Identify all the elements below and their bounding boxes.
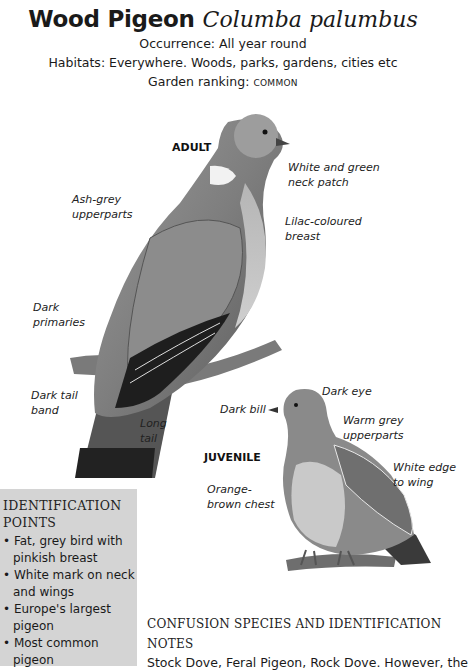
adult-stage-label: ADULT [172, 141, 211, 154]
confusion-species-section: CONFUSION SPECIES AND IDENTIFICATIONNOTE… [147, 614, 447, 672]
label-long-tail: Longtail [140, 416, 167, 446]
heading-line: POINTS [3, 515, 56, 530]
identification-points-box: IDENTIFICATIONPOINTS Fat, grey bird with… [0, 489, 137, 666]
label-dark-bill: Dark bill [220, 402, 266, 417]
confusion-heading: CONFUSION SPECIES AND IDENTIFICATIONNOTE… [147, 614, 447, 654]
label-warm-grey-upperparts: Warm greyupperparts [343, 413, 404, 443]
heading-line: CONFUSION SPECIES AND IDENTIFICATION [147, 617, 441, 631]
label-neck-patch: White and greenneck patch [288, 160, 380, 190]
label-white-edge-wing: White edgeto wing [393, 460, 456, 490]
label-dark-eye: Dark eye [322, 384, 372, 399]
ranking-label: Garden ranking: [148, 74, 253, 89]
label-line: neck patch [288, 176, 349, 189]
common-name: Wood Pigeon [28, 6, 194, 32]
label-line: Dark tail [31, 389, 78, 402]
occurrence: Occurrence: All year round [0, 36, 446, 51]
label-dark-primaries: Darkprimaries [33, 300, 85, 330]
garden-ranking: Garden ranking: COMMON [0, 74, 446, 89]
label-line: tail [140, 432, 157, 445]
habitats: Habitats: Everywhere. Woods, parks, gard… [0, 55, 446, 70]
identification-point: Europe's largest pigeon [3, 601, 137, 635]
label-line: Long [140, 417, 167, 430]
label-line: breast [285, 230, 320, 243]
identification-list: Fat, grey bird with pinkish breast White… [0, 531, 137, 669]
label-line: Ash-grey [72, 193, 121, 206]
label-line: Warm grey [343, 414, 404, 427]
label-line: White and green [288, 161, 380, 174]
confusion-text: Stock Dove, Feral Pigeon, Rock Dove. How… [147, 654, 447, 672]
identification-heading: IDENTIFICATIONPOINTS [0, 489, 137, 531]
label-line: Lilac-coloured [285, 215, 362, 228]
label-ash-grey-upperparts: Ash-greyupperparts [72, 192, 133, 222]
identification-point: White mark on neck and wings [3, 567, 137, 601]
identification-point: Most common pigeon [3, 635, 137, 669]
label-line: to wing [393, 476, 434, 489]
ranking-value: COMMON [253, 78, 298, 88]
identification-point: Fat, grey bird with pinkish breast [3, 533, 137, 567]
label-lilac-breast: Lilac-colouredbreast [285, 214, 362, 244]
latin-name: Columba palumbus [203, 7, 418, 32]
label-orange-brown-chest: Orange-brown chest [207, 482, 275, 512]
species-title: Wood PigeonColumba palumbus [0, 6, 446, 32]
label-dark-tail-band: Dark tailband [31, 388, 78, 418]
label-line: Orange- [207, 483, 252, 496]
label-line: upperparts [343, 429, 404, 442]
heading-line: IDENTIFICATION [3, 498, 121, 513]
label-line: Dark [33, 301, 59, 314]
label-line: White edge [393, 461, 456, 474]
label-line: band [31, 404, 59, 417]
juvenile-stage-label: JUVENILE [204, 451, 261, 464]
heading-line: NOTES [147, 637, 193, 651]
label-line: primaries [33, 316, 85, 329]
label-line: brown chest [207, 498, 275, 511]
label-line: upperparts [72, 208, 133, 221]
